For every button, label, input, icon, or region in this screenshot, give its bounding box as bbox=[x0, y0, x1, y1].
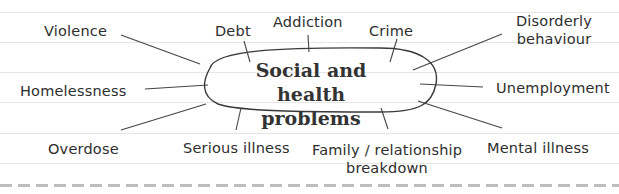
dashed-divider bbox=[0, 184, 619, 187]
connector-mental-illness bbox=[418, 101, 502, 128]
branch-addiction: Addiction bbox=[273, 13, 343, 31]
branch-family: Family / relationship breakdown bbox=[312, 141, 462, 177]
branch-disorderly-line2: behaviour bbox=[508, 30, 600, 48]
branch-unemployment: Unemployment bbox=[496, 79, 610, 97]
connector-overdose bbox=[121, 104, 206, 130]
connector-homelessness bbox=[145, 85, 208, 89]
branch-family-line2: breakdown bbox=[312, 159, 462, 177]
connector-disorderly bbox=[413, 34, 502, 70]
branch-violence: Violence bbox=[44, 22, 107, 40]
branch-serious-illness: Serious illness bbox=[183, 139, 290, 157]
connector-violence bbox=[121, 35, 200, 64]
branch-disorderly: Disorderly behaviour bbox=[508, 12, 600, 48]
branch-family-line1: Family / relationship bbox=[312, 141, 462, 159]
center-topic-line1: Social and health bbox=[226, 58, 396, 106]
connector-addiction bbox=[308, 35, 309, 52]
branch-mental-illness: Mental illness bbox=[487, 139, 589, 157]
branch-crime: Crime bbox=[369, 22, 413, 40]
branch-homelessness: Homelessness bbox=[20, 82, 127, 100]
center-topic-line2: problems bbox=[226, 106, 396, 130]
branch-overdose: Overdose bbox=[48, 140, 119, 158]
branch-disorderly-line1: Disorderly bbox=[508, 12, 600, 30]
center-topic: Social and health problems bbox=[226, 58, 396, 130]
connector-unemployment bbox=[420, 84, 483, 87]
branch-debt: Debt bbox=[215, 22, 251, 40]
